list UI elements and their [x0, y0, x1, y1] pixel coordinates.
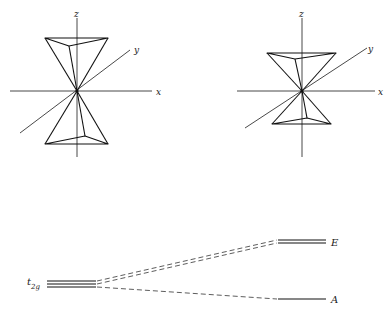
- right-bottom-pyramid: [272, 91, 331, 124]
- right-y-label: y: [367, 44, 374, 54]
- connector-to-A: [97, 287, 277, 299]
- left-z-label: z: [73, 9, 79, 19]
- t2g-label: t2g: [27, 276, 40, 291]
- connectors-to-E: [97, 240, 277, 284]
- left-y-axis: [20, 50, 130, 133]
- right-x-label: x: [378, 87, 383, 97]
- right-coordinate-figure: z x y: [237, 9, 383, 157]
- right-y-axis: [245, 48, 367, 128]
- A-label: A: [330, 294, 338, 305]
- right-top-pyramid: [267, 53, 336, 91]
- E-level: [278, 240, 326, 243]
- right-origin-dot: [300, 89, 303, 92]
- left-top-pyramid: [45, 38, 108, 91]
- left-x-label: x: [156, 87, 161, 97]
- left-coordinate-figure: z x y: [10, 9, 161, 157]
- diagram-canvas: z x y z x y: [0, 0, 392, 312]
- E-label: E: [330, 237, 339, 248]
- left-bottom-pyramid: [45, 91, 108, 144]
- right-z-label: z: [298, 9, 304, 19]
- left-origin-dot: [75, 89, 78, 92]
- t2g-label-sub: 2g: [30, 283, 40, 291]
- t2g-level: [47, 281, 96, 287]
- energy-level-diagram: t2g E A: [27, 237, 339, 305]
- left-y-label: y: [133, 45, 140, 55]
